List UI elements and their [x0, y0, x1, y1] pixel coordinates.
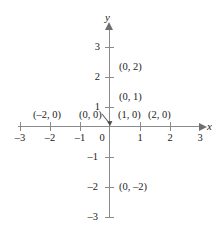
y-tick-mark: [105, 107, 114, 108]
x-tick-mark: [170, 122, 171, 131]
point-label-0-2: (0, 2): [119, 62, 142, 73]
point-label-0-0: (0, 0): [79, 110, 102, 121]
x-tick-label: 2: [158, 133, 182, 144]
y-tick-mark: [105, 47, 114, 48]
x-tick-label: –3: [8, 133, 32, 144]
y-tick-mark: [105, 187, 114, 188]
y-tick-mark: [105, 217, 114, 218]
point-label-0-neg2: (0, –2): [119, 182, 147, 193]
point-label-2-0: (2, 0): [148, 110, 171, 121]
x-tick-mark: [140, 122, 141, 131]
x-tick-label: –2: [38, 133, 62, 144]
y-tick-mark: [105, 77, 114, 78]
y-tick-label: –1: [74, 152, 98, 163]
y-tick-label: 3: [76, 42, 100, 53]
y-axis-label: y: [105, 12, 110, 23]
x-tick-label: 1: [128, 133, 152, 144]
x-tick-mark: [50, 122, 51, 131]
point-label-neg2-0: (–2, 0): [33, 110, 61, 121]
x-tick-mark: [80, 122, 81, 131]
x-tick-label: –1: [68, 133, 92, 144]
origin-pointer-arrow-icon: [100, 112, 118, 130]
y-tick-label: –3: [74, 212, 98, 223]
x-axis-arrow-icon: [199, 123, 207, 131]
y-axis-arrow-icon: [105, 22, 113, 30]
point-label-0-1: (0, 1): [119, 92, 142, 103]
point-label-1-0: (1, 0): [118, 110, 141, 121]
y-tick-mark: [105, 157, 114, 158]
x-axis-label: x: [207, 121, 212, 132]
y-tick-label: 2: [76, 72, 100, 83]
y-tick-label: –2: [74, 182, 98, 193]
x-tick-mark: [20, 122, 21, 131]
x-tick-label: 0: [90, 133, 114, 144]
coordinate-plane-figure: x y –3 –2 –1 0 1 2 3 3 2 1 –1 –2 –3 (–2,…: [0, 0, 224, 225]
x-tick-label: 3: [188, 133, 212, 144]
